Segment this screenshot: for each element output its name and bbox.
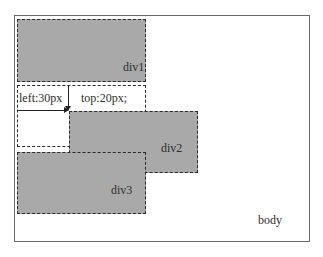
top-offset-arrowhead-icon bbox=[65, 106, 71, 111]
diagram-canvas: div1 div2 div3 left:30px top:20px; body bbox=[0, 0, 323, 257]
body-label: body bbox=[258, 213, 282, 228]
div2-label: div2 bbox=[161, 141, 182, 156]
left-offset-annotation: left:30px bbox=[19, 91, 62, 106]
div3-label: div3 bbox=[111, 183, 132, 198]
top-offset-annotation: top:20px; bbox=[81, 91, 127, 106]
left-offset-arrow-line bbox=[17, 110, 68, 111]
div1-label: div1 bbox=[123, 60, 144, 75]
